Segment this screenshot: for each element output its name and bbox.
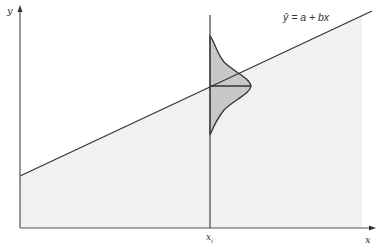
x-axis-arrow-icon: [369, 226, 376, 231]
y-axis-arrow-icon: [18, 5, 23, 12]
equation-label: ŷ = a + bx: [282, 11, 330, 23]
y-axis-label: y: [6, 5, 13, 16]
x-axis-label: x: [365, 234, 371, 245]
shaded-region-below-line: [20, 16, 362, 228]
regression-diagram: y x xi ŷ = a + bx: [0, 0, 381, 247]
xi-label: xi: [206, 232, 213, 244]
